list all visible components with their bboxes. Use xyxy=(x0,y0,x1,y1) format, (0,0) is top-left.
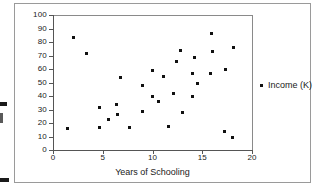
scatter-point xyxy=(196,82,199,85)
scatter-point xyxy=(193,56,196,59)
y-axis-tick-label: 10 xyxy=(23,133,47,141)
y-axis-tick-mark xyxy=(49,123,53,124)
scatter-point xyxy=(210,32,213,35)
scatter-point xyxy=(115,103,118,106)
scatter-point xyxy=(116,113,119,116)
scatter-point xyxy=(224,68,227,71)
square-marker-icon xyxy=(260,84,263,87)
legend-item-label: Income (K) xyxy=(268,80,312,90)
scatter-point xyxy=(107,118,110,121)
x-axis-tick-mark xyxy=(252,150,253,154)
y-axis-tick-label: 40 xyxy=(23,92,47,100)
scatter-point xyxy=(151,95,154,98)
scatter-point xyxy=(119,76,122,79)
y-axis-tick-label: 90 xyxy=(23,25,47,33)
x-axis-tick-mark xyxy=(202,150,203,154)
scatter-point xyxy=(191,72,194,75)
scatter-point xyxy=(167,125,170,128)
y-axis-tick-mark xyxy=(49,137,53,138)
y-axis-line xyxy=(53,15,54,151)
y-axis-tick-label: 100 xyxy=(23,11,47,19)
scatter-point xyxy=(141,84,144,87)
scatter-point xyxy=(211,50,214,53)
y-axis-tick-mark xyxy=(49,29,53,30)
y-axis-tick-mark xyxy=(49,110,53,111)
y-axis-tick-mark xyxy=(49,83,53,84)
scatter-point xyxy=(181,111,184,114)
scatter-point xyxy=(141,110,144,113)
scatter-point xyxy=(209,72,212,75)
scatter-point xyxy=(175,60,178,63)
scatter-point xyxy=(66,127,69,130)
y-axis-tick-label: 50 xyxy=(23,79,47,87)
scatter-point xyxy=(232,46,235,49)
scatter-point xyxy=(172,92,175,95)
scatter-point xyxy=(157,100,160,103)
x-axis-title: Years of Schooling xyxy=(53,167,252,177)
scatter-point xyxy=(98,106,101,109)
x-axis-tick-label: 20 xyxy=(242,154,262,162)
scatter-point xyxy=(162,75,165,78)
scatter-point xyxy=(98,126,101,129)
y-axis-tick-label: 0 xyxy=(23,146,47,154)
y-axis-tick-mark xyxy=(49,15,53,16)
x-axis-tick-label: 15 xyxy=(192,154,212,162)
scatter-point xyxy=(223,130,226,133)
scatter-point xyxy=(72,36,75,39)
left-edge-fragment-top xyxy=(0,102,7,106)
x-axis-tick-label: 10 xyxy=(143,154,163,162)
left-edge-fragment-bottom xyxy=(0,178,9,182)
y-axis-tick-mark xyxy=(49,96,53,97)
x-axis-tick-label: 0 xyxy=(43,154,63,162)
scatter-point xyxy=(191,95,194,98)
y-axis-tick-mark xyxy=(49,42,53,43)
y-axis-tick-label: 70 xyxy=(23,52,47,60)
legend: Income (K) xyxy=(260,80,312,90)
left-edge-fragment-middle xyxy=(0,113,3,123)
x-axis-tick-mark xyxy=(53,150,54,154)
scatter-point xyxy=(151,69,154,72)
y-axis-tick-mark xyxy=(49,56,53,57)
y-axis-tick-label: 80 xyxy=(23,38,47,46)
x-axis-tick-label: 5 xyxy=(93,154,113,162)
x-axis-tick-mark xyxy=(153,150,154,154)
y-axis-tick-mark xyxy=(49,69,53,70)
y-axis-tick-label: 30 xyxy=(23,106,47,114)
scatter-point xyxy=(128,126,131,129)
chart-frame: 0102030405060708090100 05101520 Years of… xyxy=(14,3,311,183)
y-axis-tick-label: 60 xyxy=(23,65,47,73)
scatter-point xyxy=(231,136,234,139)
x-axis-tick-mark xyxy=(103,150,104,154)
y-axis-tick-label: 20 xyxy=(23,119,47,127)
scatter-point xyxy=(85,52,88,55)
scatter-point xyxy=(179,49,182,52)
